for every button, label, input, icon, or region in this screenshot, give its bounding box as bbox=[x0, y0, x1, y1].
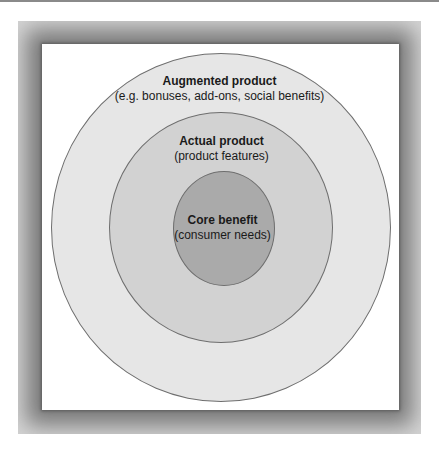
actual-product-label: Actual product (product features) bbox=[2, 134, 439, 164]
actual-product-subtitle: (product features) bbox=[2, 149, 439, 164]
augmented-product-title: Augmented product bbox=[0, 74, 439, 89]
top-rule bbox=[0, 0, 439, 2]
core-benefit-title: Core benefit bbox=[3, 213, 439, 228]
augmented-product-label: Augmented product (e.g. bonuses, add-ons… bbox=[0, 74, 439, 104]
core-benefit-label: Core benefit (consumer needs) bbox=[3, 213, 439, 243]
actual-product-title: Actual product bbox=[2, 134, 439, 149]
augmented-product-subtitle: (e.g. bonuses, add-ons, social benefits) bbox=[0, 89, 439, 104]
core-benefit-subtitle: (consumer needs) bbox=[3, 228, 439, 243]
